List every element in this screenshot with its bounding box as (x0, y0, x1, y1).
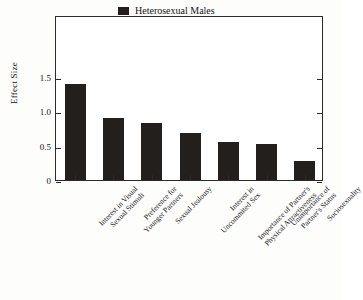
x-tick-mark (75, 175, 76, 180)
bar (180, 133, 201, 180)
legend-label-heterosexual-males: Heterosexual Males (135, 5, 215, 16)
x-axis-label: Interest inUncommited Sex (213, 185, 262, 235)
y-axis-title: Effect Size (9, 43, 19, 123)
x-axis-label: Interest in VisualSexual Stimuli (98, 185, 146, 234)
y-tick-label: 1.0 (21, 107, 51, 117)
bar (103, 118, 124, 180)
y-tick-mark (56, 79, 61, 80)
bar (65, 84, 86, 180)
y-tick-label: 1.5 (21, 73, 51, 83)
x-axis-label: Preference forYounger Partners (136, 185, 185, 235)
y-tick-mark (317, 79, 322, 80)
x-tick-mark (228, 175, 229, 180)
bar (141, 123, 162, 180)
y-tick-mark (317, 148, 322, 149)
x-tick-mark (152, 175, 153, 180)
y-tick-mark (56, 148, 61, 149)
plot-area (55, 16, 323, 181)
x-axis-category-labels: Interest in VisualSexual StimuliPreferen… (0, 181, 341, 300)
y-tick-label: 0.5 (21, 142, 51, 152)
chart-legend: Heterosexual Males (118, 5, 215, 16)
x-tick-mark (305, 175, 306, 180)
x-tick-mark (267, 175, 268, 180)
y-tick-mark (56, 113, 61, 114)
legend-swatch-icon (118, 7, 129, 15)
x-tick-mark (190, 175, 191, 180)
x-tick-mark (113, 175, 114, 180)
y-tick-mark (317, 113, 322, 114)
